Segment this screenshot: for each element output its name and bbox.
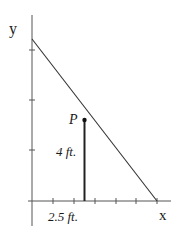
diagram-canvas: y x P 4 ft. 2.5 ft. <box>0 0 180 238</box>
point-p-label: P <box>68 112 78 127</box>
height-label: 4 ft. <box>56 144 76 159</box>
x-axis-label: x <box>159 207 167 223</box>
sloped-line <box>32 39 157 201</box>
distance-label: 2.5 ft. <box>48 209 78 224</box>
y-axis-label: y <box>9 20 17 38</box>
point-p-marker <box>82 118 86 122</box>
